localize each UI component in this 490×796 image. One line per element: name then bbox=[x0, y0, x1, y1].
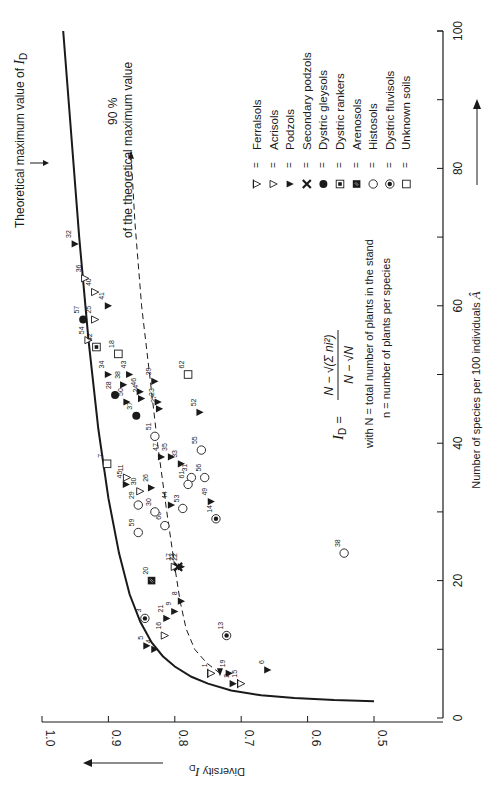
species-tick-label: 100 bbox=[451, 21, 465, 41]
legend-label-ferralsols: Ferralsols bbox=[251, 99, 263, 150]
histosols-marker-icon bbox=[134, 501, 142, 509]
point-label: 23 bbox=[148, 388, 155, 396]
data-points: 1151617301154254036245619219822444926453… bbox=[65, 230, 348, 688]
diversity-tick-label: 0.6 bbox=[309, 730, 323, 747]
podzols-marker-icon bbox=[230, 680, 237, 687]
species-tick-label: 20 bbox=[451, 574, 465, 588]
ninety-pct-desc: of the theoretical maximum value bbox=[121, 62, 135, 238]
point-label: 15 bbox=[231, 670, 238, 678]
point-label: 51 bbox=[145, 422, 152, 430]
unknown-marker-icon bbox=[103, 460, 111, 468]
species-tick-label: 60 bbox=[451, 299, 465, 313]
point-label: 19 bbox=[219, 659, 226, 667]
ferralsols-marker-icon bbox=[253, 179, 260, 188]
acrisols-marker-icon bbox=[270, 180, 277, 187]
dystric_gleysols-marker-icon bbox=[132, 412, 140, 420]
podzols-marker-icon bbox=[105, 302, 112, 309]
point-label: 1 bbox=[201, 663, 208, 667]
podzols-marker-icon bbox=[208, 498, 215, 505]
point-label: 35 bbox=[161, 443, 168, 451]
podzols-marker-icon bbox=[120, 381, 127, 388]
point-label: 8 bbox=[171, 591, 178, 595]
dystric_fluvisols-marker-icon bbox=[222, 631, 230, 639]
histosols-marker-icon bbox=[184, 480, 192, 488]
histosols-marker-icon bbox=[161, 521, 169, 529]
point-label: 4 bbox=[145, 639, 152, 643]
legend-label-unknown: Unknown soils bbox=[400, 76, 412, 150]
podzols-marker-icon bbox=[196, 409, 203, 416]
acrisols-marker-icon bbox=[137, 488, 144, 495]
point-label: 30 bbox=[130, 477, 137, 485]
point-label: 33 bbox=[171, 450, 178, 458]
arrow-head-icon bbox=[217, 668, 223, 676]
legend-label-dystric_gleysols: Dystric gleysols bbox=[317, 70, 329, 150]
point-label: 36 bbox=[75, 264, 82, 272]
point-label: 16 bbox=[155, 622, 162, 630]
legend-equals: = bbox=[334, 162, 345, 168]
dystric_gleysols-marker-icon bbox=[79, 316, 87, 324]
histosols-marker-icon bbox=[151, 508, 159, 516]
diversity-tick-label: 0.8 bbox=[176, 730, 190, 747]
point-label: 11 bbox=[117, 464, 124, 471]
point-label: 14 bbox=[206, 505, 213, 513]
podzols-marker-icon bbox=[137, 388, 144, 395]
species-axis-label: Number of species per 100 individuals Â bbox=[468, 291, 483, 489]
formula-with-line: with N = total number of plants in the s… bbox=[363, 239, 375, 449]
point-label: 44 bbox=[161, 491, 168, 499]
point-label: 20 bbox=[142, 567, 149, 575]
formula-denominator: N − √N bbox=[342, 346, 356, 384]
podzols-marker-icon bbox=[126, 371, 133, 378]
point-label: 32 bbox=[65, 230, 72, 238]
legend-label-histosols: Histosols bbox=[367, 103, 379, 150]
point-label: 57 bbox=[73, 306, 80, 314]
point-label: 30 bbox=[145, 498, 152, 506]
podzols-marker-icon bbox=[178, 598, 185, 605]
legend-label-arenosols: Arenosols bbox=[351, 99, 363, 150]
point-label: 53 bbox=[173, 495, 180, 503]
histosols-marker-icon bbox=[134, 528, 142, 536]
acrisols-marker-icon bbox=[161, 632, 168, 639]
podzols-marker-icon bbox=[148, 484, 155, 491]
legend-equals: = bbox=[251, 162, 262, 168]
diversity-axis-label: Diversity ID bbox=[188, 763, 245, 780]
point-label: 46 bbox=[130, 378, 137, 386]
point-label: 38 bbox=[114, 371, 121, 379]
legend-equals: = bbox=[351, 162, 362, 168]
diversity-tick-label: 0.7 bbox=[242, 730, 256, 747]
unknown-marker-icon bbox=[403, 180, 411, 188]
point-label: 26 bbox=[142, 474, 149, 482]
podzols-marker-icon bbox=[138, 395, 145, 402]
point-label: 7 bbox=[97, 454, 104, 458]
dystric_fluvisols-marker-icon bbox=[212, 515, 220, 523]
point-label: 56 bbox=[195, 464, 202, 472]
arrow-head-icon bbox=[83, 759, 92, 767]
diversity-tick-label: 0.5 bbox=[375, 730, 389, 747]
legend-label-secondary_podzols: Secondary podzols bbox=[301, 52, 313, 150]
point-label: 13 bbox=[217, 622, 224, 630]
dystric_fluvisols-marker-icon bbox=[141, 614, 149, 622]
legend-equals: = bbox=[301, 162, 312, 168]
legend-label-podzols: Podzols bbox=[284, 109, 296, 150]
podzols-marker-icon bbox=[264, 666, 271, 673]
point-label: 38 bbox=[334, 539, 341, 547]
podzols-marker-icon bbox=[163, 615, 170, 622]
podzols-marker-icon bbox=[287, 180, 294, 187]
podzols-marker-icon bbox=[155, 398, 162, 405]
point-label: 49 bbox=[201, 488, 208, 496]
legend-label-dystric_rankers: Dystric rankers bbox=[334, 73, 346, 150]
point-label: 41 bbox=[98, 292, 105, 300]
dystric_gleysols-marker-icon bbox=[319, 180, 327, 188]
arrow-head-icon bbox=[43, 160, 49, 166]
point-label: 62 bbox=[178, 361, 185, 369]
podzols-marker-icon bbox=[171, 608, 178, 615]
dystric_gleysols-marker-icon bbox=[111, 391, 119, 399]
point-label: 3 bbox=[135, 608, 142, 612]
arrow-head-icon bbox=[473, 99, 481, 109]
unknown-marker-icon bbox=[115, 350, 123, 358]
unknown-marker-icon bbox=[184, 371, 192, 379]
point-label: 37 bbox=[126, 402, 133, 410]
point-label: 59 bbox=[128, 519, 135, 527]
legend-equals: = bbox=[384, 162, 395, 168]
dystric_fluvisols-marker-icon bbox=[386, 180, 394, 188]
point-label: 55 bbox=[191, 436, 198, 444]
